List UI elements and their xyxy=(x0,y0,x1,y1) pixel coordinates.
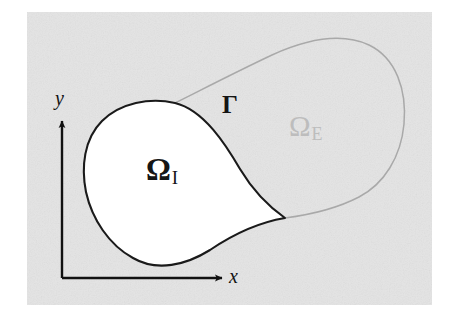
omega-exterior-subscript: E xyxy=(312,124,323,144)
boundary-gamma-label: Γ xyxy=(222,92,238,117)
omega-interior-subscript: I xyxy=(172,167,178,188)
omega-exterior-symbol: Ω xyxy=(289,110,311,142)
omega-exterior-label: ΩE xyxy=(289,112,323,143)
omega-interior-label: ΩI xyxy=(146,154,178,187)
y-axis-label: y xyxy=(55,88,64,108)
omega-interior-symbol: Ω xyxy=(146,152,171,187)
figure-root: ΩI ΩE Γ x y xyxy=(0,0,457,322)
x-axis-label: x xyxy=(229,266,238,286)
